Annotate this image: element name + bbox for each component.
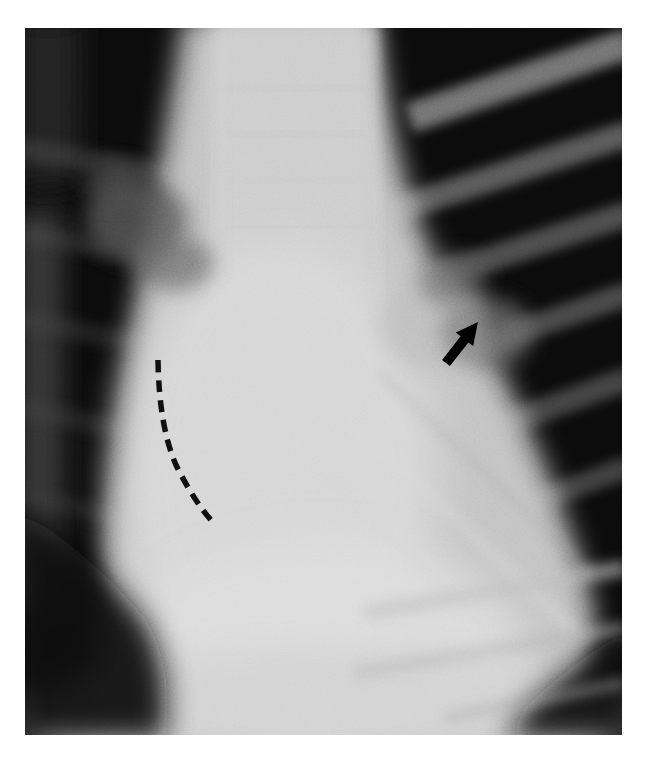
chest-xray-image <box>25 28 622 735</box>
radiograph-anatomy <box>25 28 622 735</box>
chest-xray-figure <box>25 28 622 735</box>
film-grain-texture <box>25 28 622 735</box>
book-page <box>0 0 648 772</box>
